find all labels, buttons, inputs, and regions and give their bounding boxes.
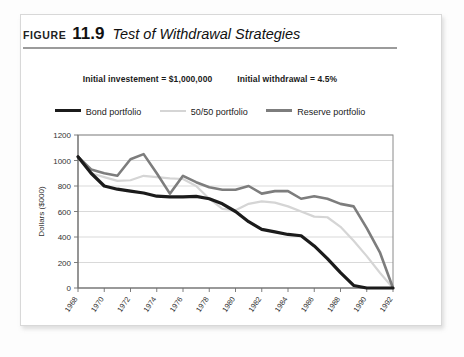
chart-y-axis-ticks: 020040060080010001200 [53,131,78,293]
legend-item-bond: Bond portfolio [55,101,142,119]
x-tick-label: 1976 [168,295,185,313]
chart-legend: Bond portfolio 50/50 portfolio Reserve p… [23,101,397,119]
legend-swatch-bond-icon [55,109,81,112]
legend-label-bond: Bond portfolio [86,107,142,117]
x-tick-label: 1980 [220,295,237,313]
initial-investment-text: Initial investement = $1,000,000 [83,74,213,84]
x-tick-label: 1972 [115,295,132,313]
y-tick-label: 200 [58,259,72,268]
y-tick-label: 0 [67,284,72,293]
x-tick-label: 1982 [246,295,263,313]
series-line-50-50-portfolio [78,157,393,288]
figure-label: FIGURE [23,29,66,41]
x-tick-label: 1988 [325,295,342,313]
y-tick-label: 600 [58,208,72,217]
y-axis-title: Dollars ($000) [37,186,46,237]
figure-number: 11.9 [72,24,104,43]
legend-label-reserve: Reserve portfolio [297,107,365,117]
chart-y-axis-label: Dollars ($000) [37,186,46,237]
legend-label-fifty-fifty: 50/50 portfolio [191,107,248,117]
x-tick-label: 1978 [194,295,211,313]
title-divider [23,47,397,49]
legend-swatch-reserve-icon [266,109,292,112]
page-title: Test of Withdrawal Strategies [112,26,300,42]
y-tick-label: 400 [58,233,72,242]
initial-withdrawal-text: Initial withdrawal = 4.5% [237,74,337,84]
line-chart: 020040060080010001200 196819701972197419… [33,128,413,313]
chart-x-axis-ticks: 1968197019721974197619781980198219841986… [63,288,395,313]
legend-swatch-fifty-fifty-icon [160,110,186,112]
chart-gridlines [78,135,393,263]
page-root: FIGURE11.9Test of Withdrawal Strategies … [0,0,464,357]
y-tick-label: 800 [58,182,72,191]
x-tick-label: 1986 [299,295,316,313]
x-tick-label: 1992 [378,295,395,313]
x-tick-label: 1990 [351,295,368,313]
y-tick-label: 1000 [53,157,71,166]
subtitle-row: Initial investement = $1,000,000 Initial… [23,68,397,86]
x-tick-label: 1984 [273,295,290,313]
chart-series-group [78,154,393,288]
series-line-bond-portfolio [78,157,393,288]
legend-item-reserve: Reserve portfolio [266,101,365,119]
figure-title-row: FIGURE11.9Test of Withdrawal Strategies [23,24,395,46]
x-tick-label: 1970 [89,295,106,313]
legend-item-fifty-fifty: 50/50 portfolio [160,101,248,119]
x-tick-label: 1974 [141,295,158,313]
y-tick-label: 1200 [53,131,71,140]
series-line-reserve-portfolio [78,154,393,288]
chart-container: 020040060080010001200 196819701972197419… [33,128,413,313]
x-tick-label: 1968 [63,295,80,313]
